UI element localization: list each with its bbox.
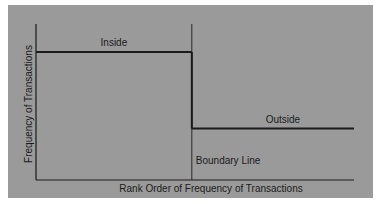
x-axis-label: Rank Order of Frequency of Transactions <box>119 183 302 194</box>
annotation-inside: Inside <box>101 37 128 48</box>
step-chart: Inside Outside Boundary Line Rank Order … <box>0 0 381 204</box>
y-axis-label: Frequency of Transactions <box>23 45 34 163</box>
annotation-outside: Outside <box>266 114 301 125</box>
boundary-label: Boundary Line <box>196 155 261 166</box>
